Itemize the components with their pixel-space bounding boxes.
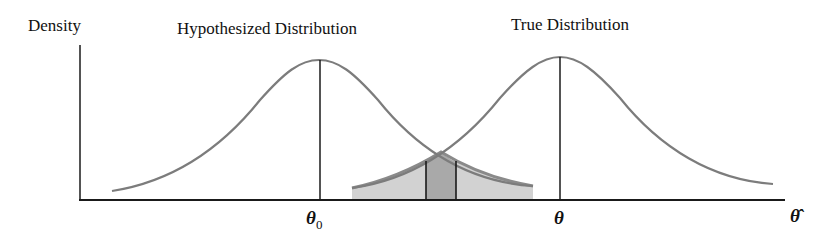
theta0-subscript: 0 [316,217,323,232]
hypothesized-distribution-label: Hypothesized Distribution [177,19,357,39]
theta0-symbol: θ [306,207,316,228]
true-distribution-label: True Distribution [511,15,629,35]
theta-tick-label: θ [554,207,564,229]
hypothesized-curve [112,60,533,191]
diagram-canvas [0,0,835,243]
y-axis-label: Density [28,16,81,36]
theta0-tick-label: θ0 [306,207,322,233]
x-axis-label: θ̂ [790,205,800,227]
true-curve [352,57,773,188]
